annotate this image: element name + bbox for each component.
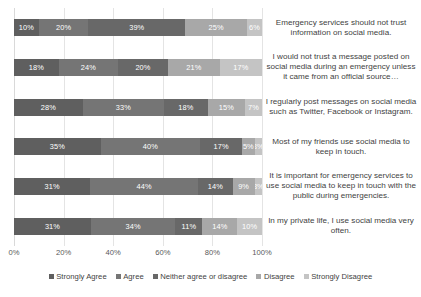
bar-segment-value: 7%: [248, 103, 259, 112]
bar-segment-value: 33%: [116, 103, 131, 112]
bar-segment[interactable]: 31%: [14, 178, 90, 195]
bar-segment[interactable]: 14%: [202, 218, 237, 235]
bar-segment-value: 14%: [212, 222, 227, 231]
bar-row[interactable]: 10%20%39%25%6%: [14, 19, 262, 36]
bar-segment-value: 10%: [242, 222, 257, 231]
x-axis-tick-label: 100%: [252, 248, 271, 257]
bar-segment[interactable]: 14%: [198, 178, 232, 195]
bar-segment-value: 31%: [45, 182, 60, 191]
bar-segment[interactable]: 25%: [185, 19, 247, 36]
bar-segment[interactable]: 11%: [175, 218, 202, 235]
bar-segment-value: 11%: [182, 222, 197, 231]
category-label: Most of my friends use social media to k…: [264, 137, 418, 157]
bar-segment[interactable]: 20%: [39, 19, 89, 36]
legend-item[interactable]: Neither agree or disagree: [153, 272, 248, 281]
bar-segment-value: 28%: [41, 103, 56, 112]
bar-segment[interactable]: 24%: [59, 59, 119, 76]
bar-segment[interactable]: 3%: [255, 138, 262, 155]
bar-segment[interactable]: 34%: [91, 218, 175, 235]
x-axis-tick-label: 60%: [155, 248, 170, 257]
bar-row[interactable]: 31%34%11%14%10%: [14, 218, 262, 235]
bar-row[interactable]: 18%24%20%21%17%: [14, 59, 262, 76]
bar-segment[interactable]: 17%: [200, 138, 242, 155]
bar-segment-value: 20%: [135, 63, 150, 72]
bar-segment-value: 20%: [56, 23, 71, 32]
bar-segment-value: 18%: [178, 103, 193, 112]
bar-row[interactable]: 31%44%14%9%3%: [14, 178, 262, 195]
bar-segment[interactable]: 15%: [208, 99, 245, 116]
legend-label: Disagree: [264, 272, 295, 281]
bar-segment-value: 35%: [50, 142, 65, 151]
x-axis-tick-label: 0%: [9, 248, 20, 257]
x-axis-tick-label: 20%: [56, 248, 71, 257]
bar-segment[interactable]: 18%: [164, 99, 208, 116]
gridline-100: [262, 8, 263, 246]
legend-swatch-icon: [256, 274, 261, 279]
bar-segment[interactable]: 40%: [101, 138, 200, 155]
bar-segment[interactable]: 31%: [14, 218, 91, 235]
category-label: I regularly post messages on social medi…: [264, 97, 418, 117]
legend-label: Agree: [123, 272, 144, 281]
bar-row[interactable]: 35%40%17%5%3%: [14, 138, 262, 155]
legend-swatch-icon: [304, 274, 309, 279]
x-axis-tick-label: 80%: [205, 248, 220, 257]
bar-series-container: 10%20%39%25%6%18%24%20%21%17%28%33%18%15…: [14, 8, 262, 246]
legend-label: Strongly Agree: [56, 272, 106, 281]
bar-segment-value: 6%: [249, 23, 260, 32]
bar-segment-value: 15%: [219, 103, 234, 112]
x-axis: 0%20%40%60%80%100%: [14, 248, 262, 262]
bar-segment-value: 10%: [19, 23, 34, 32]
bar-segment-value: 25%: [209, 23, 224, 32]
bar-segment[interactable]: 9%: [233, 178, 255, 195]
bar-segment-value: 44%: [137, 182, 152, 191]
bar-segment-value: 34%: [125, 222, 140, 231]
bar-segment-value: 17%: [233, 63, 248, 72]
bar-segment[interactable]: 7%: [245, 99, 262, 116]
legend-item[interactable]: Strongly Disagree: [304, 272, 373, 281]
bar-segment-value: 14%: [208, 182, 223, 191]
chart-legend: Strongly AgreeAgreeNeither agree or disa…: [0, 272, 421, 281]
legend-label: Strongly Disagree: [311, 272, 372, 281]
category-label: Emergency services should not trust info…: [264, 18, 418, 38]
legend-item[interactable]: Agree: [116, 272, 144, 281]
x-axis-tick-label: 40%: [106, 248, 121, 257]
legend-label: Neither agree or disagree: [160, 272, 247, 281]
bar-segment[interactable]: 33%: [83, 99, 164, 116]
stacked-bar-chart: 10%20%39%25%6%18%24%20%21%17%28%33%18%15…: [0, 0, 421, 297]
bar-row[interactable]: 28%33%18%15%7%: [14, 99, 262, 116]
bar-segment-value: 3%: [255, 142, 262, 151]
bar-segment-value: 5%: [243, 142, 254, 151]
bar-segment-value: 39%: [129, 23, 144, 32]
legend-swatch-icon: [153, 274, 158, 279]
bar-segment[interactable]: 10%: [237, 218, 262, 235]
bar-segment-value: 24%: [81, 63, 96, 72]
bar-segment[interactable]: 39%: [88, 19, 185, 36]
bar-segment[interactable]: 21%: [168, 59, 220, 76]
bar-segment-value: 17%: [214, 142, 229, 151]
legend-swatch-icon: [49, 274, 54, 279]
bar-segment-value: 31%: [45, 222, 60, 231]
bar-segment[interactable]: 3%: [255, 178, 262, 195]
bar-segment-value: 21%: [186, 63, 201, 72]
bar-segment[interactable]: 10%: [14, 19, 39, 36]
bar-segment-value: 18%: [29, 63, 44, 72]
bar-segment[interactable]: 28%: [14, 99, 83, 116]
bar-segment-value: 3%: [255, 182, 262, 191]
bar-segment[interactable]: 17%: [220, 59, 262, 76]
bar-segment[interactable]: 35%: [14, 138, 101, 155]
bar-segment-value: 40%: [143, 142, 158, 151]
category-label: It is important for emergency services t…: [264, 171, 418, 202]
legend-swatch-icon: [116, 274, 121, 279]
bar-segment[interactable]: 5%: [242, 138, 254, 155]
bar-segment[interactable]: 20%: [118, 59, 168, 76]
category-label: In my private life, I use social media v…: [264, 216, 418, 236]
category-labels: Emergency services should not trust info…: [264, 8, 418, 246]
bar-segment-value: 9%: [238, 182, 249, 191]
bar-segment[interactable]: 6%: [247, 19, 262, 36]
plot-area: 10%20%39%25%6%18%24%20%21%17%28%33%18%15…: [14, 8, 262, 246]
legend-item[interactable]: Disagree: [256, 272, 294, 281]
category-label: I would not trust a message posted on so…: [264, 52, 418, 83]
bar-segment[interactable]: 44%: [90, 178, 198, 195]
legend-item[interactable]: Strongly Agree: [49, 272, 107, 281]
bar-segment[interactable]: 18%: [14, 59, 59, 76]
